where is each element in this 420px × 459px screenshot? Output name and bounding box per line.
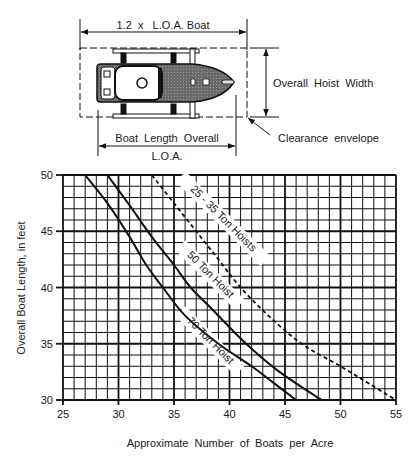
boat-length-dimension xyxy=(98,95,236,156)
top-dimension-label: 1.2 x L.O.A. Boat xyxy=(117,19,210,31)
figure: 1.2 x L.O.A. Boat xyxy=(0,0,420,459)
y-tick-label: 40 xyxy=(41,282,53,294)
y-tick-label: 45 xyxy=(41,225,53,237)
boat-icon xyxy=(97,64,234,102)
x-axis-label: Approximate Number of Boats per Acre xyxy=(127,437,334,449)
y-tick-label: 30 xyxy=(41,394,53,406)
x-tick-label: 30 xyxy=(112,408,124,420)
y-axis-label: Overall Boat Length, in feet xyxy=(15,221,27,354)
x-tick-label: 55 xyxy=(390,408,402,420)
x-tick-label: 40 xyxy=(223,408,235,420)
x-tick-label: 50 xyxy=(334,408,346,420)
clearance-leader-line xyxy=(248,118,270,135)
boat-clearance-diagram: 1.2 x L.O.A. Boat xyxy=(80,19,379,162)
x-tick-label: 25 xyxy=(57,408,69,420)
clearance-label: Clearance envelope xyxy=(278,132,379,144)
curve-label-25-35-ton: 25 - 35 Ton Hoists xyxy=(188,183,259,254)
y-tick-label: 50 xyxy=(41,169,53,181)
boat-length-label: Boat Length Overall xyxy=(115,132,218,144)
x-tick-label: 45 xyxy=(279,408,291,420)
y-tick-label: 35 xyxy=(41,338,53,350)
loa-label: L.O.A. xyxy=(151,150,182,162)
hoist-width-label: Overall Hoist Width xyxy=(273,77,373,89)
x-tick-label: 35 xyxy=(168,408,180,420)
boats-per-acre-chart: 253035404550553035404550 70 Ton Hoist 50… xyxy=(15,169,402,449)
